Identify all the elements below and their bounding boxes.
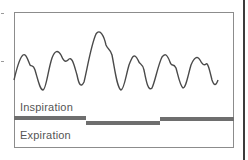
phase-bar-inspiration-2 [160, 117, 234, 121]
waveform-trace [14, 32, 218, 90]
phase-bar-inspiration-1 [14, 116, 86, 120]
inspiration-label: Inspiration [20, 101, 73, 113]
phase-bar-expiration [86, 121, 160, 125]
expiration-label: Expiration [20, 129, 71, 141]
